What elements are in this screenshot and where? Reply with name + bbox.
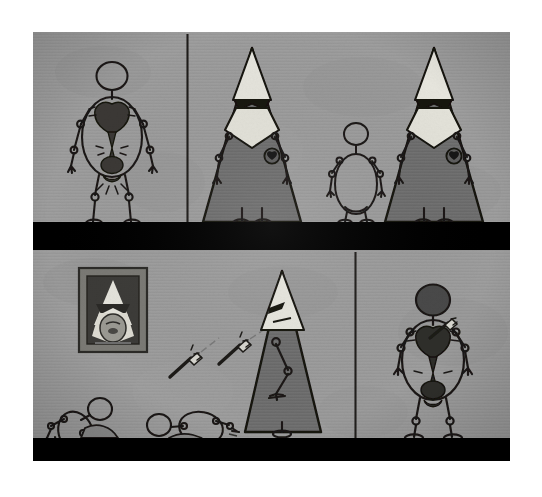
vignette xyxy=(33,32,510,461)
comic-artwork xyxy=(33,32,510,461)
comic-canvas xyxy=(0,0,542,497)
